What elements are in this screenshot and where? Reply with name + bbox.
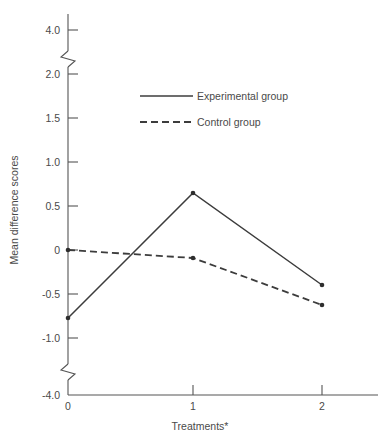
legend-item-control-group: Control group — [140, 116, 261, 128]
legend-label-control-group: Control group — [197, 116, 261, 128]
y-tick-label--0.5: -0.5 — [42, 288, 60, 300]
legend-label-experimental-group: Experimental group — [197, 90, 288, 102]
control-group-point-1 — [66, 248, 71, 253]
control-group-point-3 — [320, 303, 325, 308]
y-tick-label-0: 0 — [54, 244, 60, 256]
x-axis — [68, 385, 378, 395]
y-axis-title: Mean difference scores — [8, 156, 20, 265]
y-tick-label-1.5: 1.5 — [45, 112, 60, 124]
x-tick-label-1: 1 — [190, 400, 196, 412]
legend: Experimental group Control group — [140, 90, 288, 128]
y-tick-labels: 4.0 2.0 1.5 1.0 0.5 0 -0.5 -1.0 -4.0 — [42, 24, 60, 401]
line-chart: 4.0 2.0 1.5 1.0 0.5 0 -0.5 -1.0 -4.0 Mea… — [0, 0, 386, 436]
legend-item-experimental-group: Experimental group — [140, 90, 288, 102]
y-tick-label-4.0: 4.0 — [45, 24, 60, 36]
x-tick-label-0: 0 — [65, 400, 71, 412]
x-tick-labels: 0 1 2 — [65, 400, 325, 412]
y-tick-label-0.5: 0.5 — [45, 200, 60, 212]
experimental-group-point-1 — [66, 316, 71, 321]
chart-container: 4.0 2.0 1.5 1.0 0.5 0 -0.5 -1.0 -4.0 Mea… — [0, 0, 386, 436]
y-tick-label--1.0: -1.0 — [42, 332, 60, 344]
x-tick-label-2: 2 — [319, 400, 325, 412]
experimental-group-point-3 — [320, 283, 325, 288]
y-tick-label--4.0: -4.0 — [42, 389, 60, 401]
y-tick-label-1.0: 1.0 — [45, 156, 60, 168]
experimental-group-line — [68, 193, 322, 318]
y-axis-break-lower — [61, 364, 75, 380]
control-group-point-2 — [191, 256, 196, 261]
y-tick-label-2.0: 2.0 — [45, 68, 60, 80]
y-tick-marks — [68, 30, 78, 338]
experimental-group-point-2 — [191, 191, 196, 196]
series-experimental-group — [66, 191, 325, 321]
series-control-group — [66, 248, 325, 308]
x-axis-title: Treatments* — [172, 420, 229, 432]
y-axis-break-upper — [61, 51, 75, 67]
